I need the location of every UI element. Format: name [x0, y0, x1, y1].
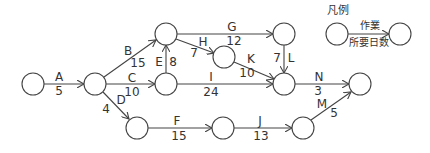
legend-activity-label: 作業 — [360, 20, 380, 32]
legend-title: 凡例 — [327, 5, 349, 17]
activity-M-name: M — [317, 98, 327, 110]
activity-C-name: C — [128, 72, 136, 84]
node-1 — [22, 73, 44, 95]
activity-C-duration: 10 — [124, 86, 139, 98]
node-5 — [213, 46, 235, 68]
legend-node-start — [326, 23, 348, 45]
arrow-diagram: A 5 B 15 C 10 D 4 E 8 F 15 G 12 H 7 I 24… — [0, 0, 430, 153]
activity-H-name: H — [198, 36, 207, 48]
node-4 — [155, 73, 177, 95]
node-3 — [155, 23, 177, 45]
node-6 — [273, 23, 295, 45]
node-9 — [126, 117, 148, 139]
node-8 — [349, 73, 371, 95]
activity-E-duration: 8 — [169, 56, 177, 68]
activity-D-duration: 4 — [102, 103, 110, 115]
activity-F-name: F — [174, 115, 181, 127]
activity-J-name: J — [258, 115, 262, 127]
activity-G-name: G — [227, 21, 236, 33]
activity-N-duration: 3 — [314, 85, 322, 97]
node-7 — [273, 73, 295, 95]
activity-B-duration: 15 — [130, 57, 145, 69]
activity-M-duration: 5 — [330, 107, 338, 119]
node-11 — [292, 117, 314, 139]
legend-duration-label: 所要日数 — [349, 37, 389, 49]
activity-L-duration: 7 — [273, 52, 281, 64]
activity-K-name: K — [247, 53, 255, 65]
activity-L-name: L — [288, 52, 295, 64]
node-2 — [84, 73, 106, 95]
activity-N-name: N — [315, 71, 324, 83]
activity-H-duration: 7 — [190, 47, 198, 59]
activity-F-duration: 15 — [171, 130, 186, 142]
activity-J-duration: 13 — [253, 130, 268, 142]
activity-A-duration: 5 — [55, 85, 63, 97]
activity-I-duration: 24 — [203, 86, 218, 98]
activity-E-name: E — [155, 56, 163, 68]
activity-A-name: A — [55, 71, 63, 83]
node-10 — [212, 117, 234, 139]
activity-D-name: D — [116, 94, 125, 106]
activity-I-name: I — [209, 71, 213, 83]
legend-node-end — [389, 23, 411, 45]
activity-K-duration: 10 — [239, 67, 254, 79]
activity-G-duration: 12 — [226, 35, 241, 47]
